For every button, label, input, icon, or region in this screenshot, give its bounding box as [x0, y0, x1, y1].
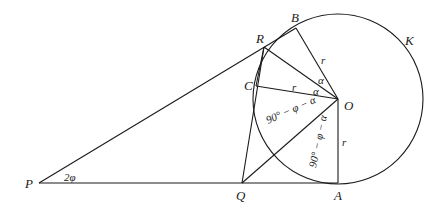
label-a: A [333, 188, 342, 203]
label-angle-p: 2φ [64, 171, 76, 183]
label-r-oc: r [292, 81, 297, 93]
line-or [264, 47, 338, 99]
line-pb [39, 28, 296, 183]
label-r-ob: r [321, 54, 326, 66]
line-rq [242, 47, 264, 183]
line-rc [256, 47, 264, 86]
label-alpha-2: α [313, 85, 319, 97]
label-p: P [24, 176, 33, 191]
label-q: Q [236, 188, 246, 203]
label-k: K [404, 33, 415, 48]
label-r-oa: r [342, 136, 347, 148]
label-r: R [255, 31, 264, 46]
label-alpha-1: α [318, 74, 324, 86]
line-oc [256, 86, 338, 99]
label-o: O [344, 98, 354, 113]
geometry-diagram: P Q A O B R C K 2φ r r r α α 90° − φ − α… [0, 0, 447, 211]
label-angle-qoa: 90° − φ − α [306, 114, 329, 169]
label-b: B [291, 10, 299, 25]
label-angle-qoc: 90° − φ − α [264, 93, 318, 126]
label-c: C [244, 78, 253, 93]
